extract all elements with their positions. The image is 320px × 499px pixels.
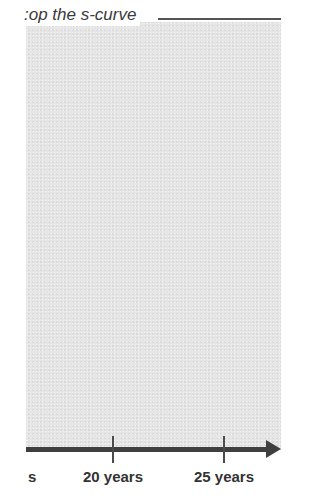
title-underline [158,18,281,20]
tick-mark-25-years [223,436,225,463]
tick-label-partial: s [28,467,36,487]
tick-label-20-years: 20 years [83,467,143,487]
tick-label-25-years: 25 years [194,467,254,487]
tick-mark-20-years [112,436,114,463]
shaded-region [26,22,281,450]
diagram-title: :op the s-curve [24,4,140,26]
time-axis-line [26,447,270,452]
axis-arrowhead-icon [266,440,281,458]
